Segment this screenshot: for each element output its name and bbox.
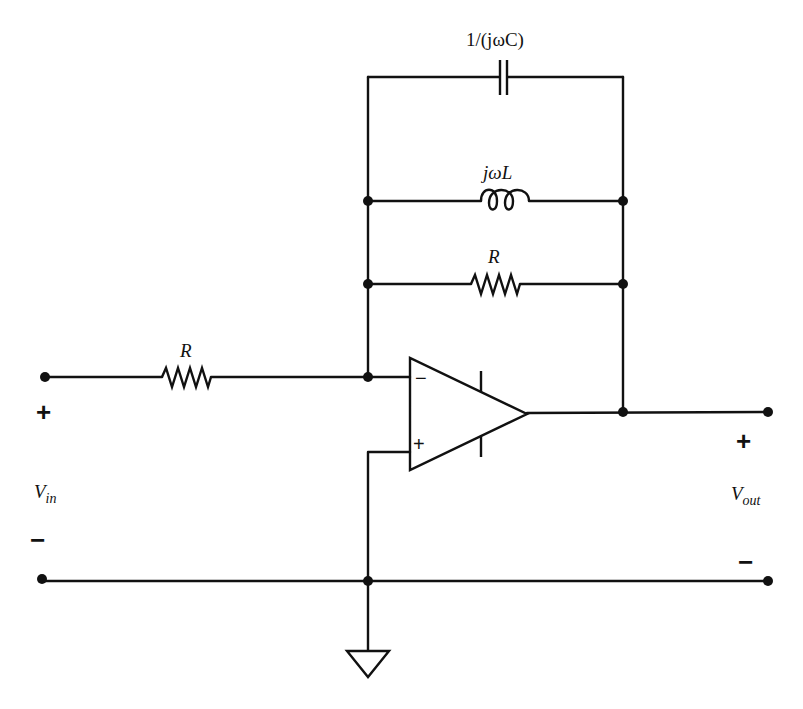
node-feedback-left-inductor: [363, 196, 373, 206]
node-ground-junction: [363, 576, 373, 586]
circuit-schematic: [0, 0, 803, 709]
input-plus-sign: +: [36, 399, 51, 425]
feedback-resistor-label: R: [488, 247, 500, 266]
output-voltage-label: Vout: [731, 484, 761, 503]
output-wire: [527, 412, 768, 413]
noninverting-wire: [368, 452, 410, 650]
output-voltage-sub: out: [743, 493, 761, 508]
output-voltage-main: V: [731, 483, 743, 504]
capacitor-label: 1/(jωC): [466, 30, 524, 49]
input-resistor: [45, 368, 410, 387]
node-feedback-left-resistor: [363, 279, 373, 289]
terminal-output-minus: [763, 576, 773, 586]
feedback-resistor: [368, 275, 623, 294]
opamp: [410, 358, 527, 470]
inductor: [368, 190, 623, 210]
input-voltage-main: V: [34, 481, 46, 502]
node-inverting-junction: [363, 372, 373, 382]
input-resistor-label: R: [180, 341, 192, 360]
inductor-label: jωL: [483, 163, 512, 182]
terminal-input-plus: [40, 372, 50, 382]
input-voltage-sub: in: [46, 491, 57, 506]
output-plus-sign: +: [736, 428, 751, 454]
input-minus-sign: −: [30, 527, 45, 553]
node-feedback-right-resistor: [618, 279, 628, 289]
opamp-inverting-sign: −: [415, 368, 427, 388]
ground-icon: [347, 651, 389, 677]
terminal-input-minus: [37, 574, 47, 584]
input-voltage-label: Vin: [34, 482, 57, 501]
terminal-output-plus: [763, 407, 773, 417]
opamp-noninverting-sign: +: [413, 434, 425, 454]
capacitor: [368, 60, 623, 95]
node-feedback-right-inductor: [618, 196, 628, 206]
output-minus-sign: −: [738, 549, 753, 575]
node-output-junction: [618, 407, 628, 417]
